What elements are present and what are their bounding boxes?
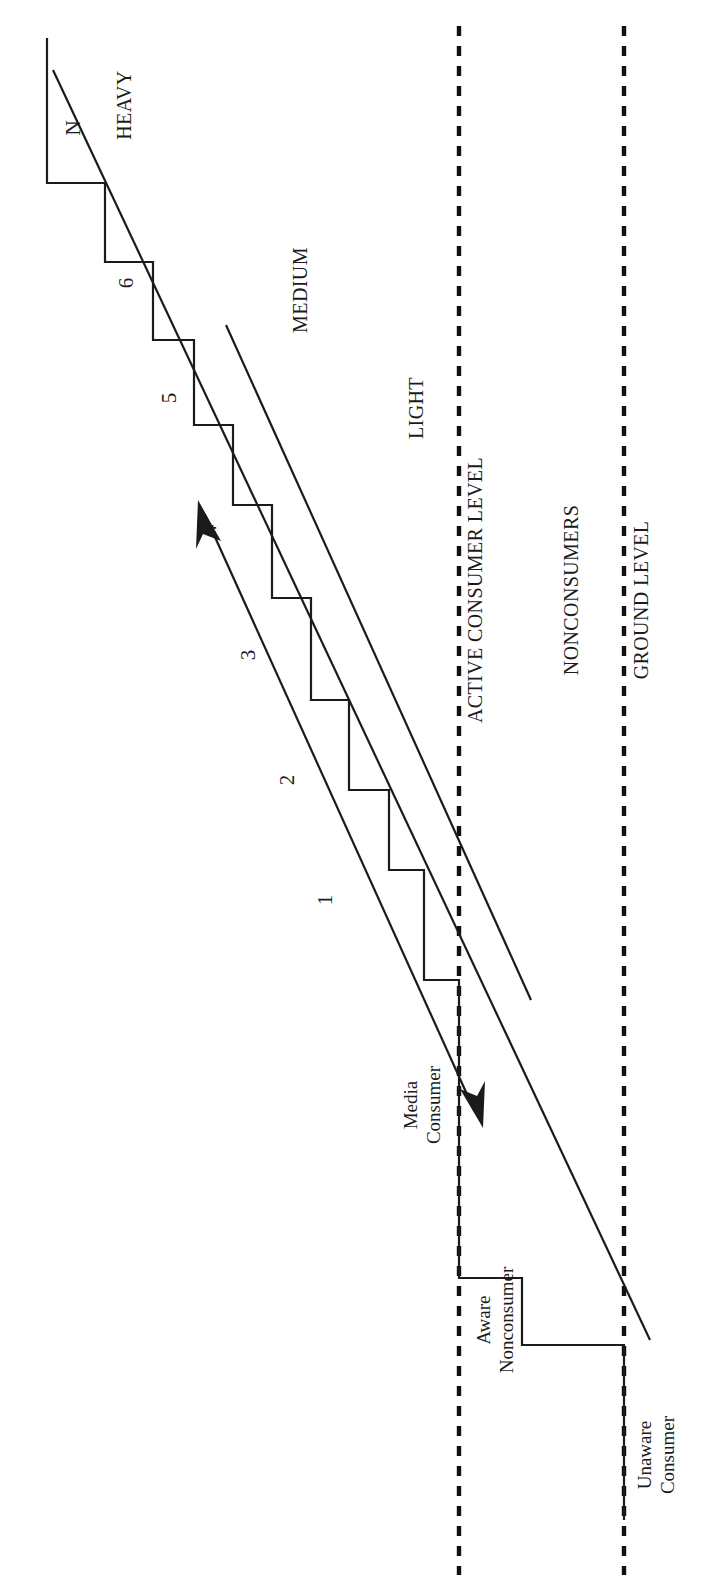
step-label-aware-nonconsumer-line1: Aware <box>473 1296 494 1345</box>
step-label-media-consumer-line2: Consumer <box>423 1065 444 1144</box>
step-label-6: 6 <box>114 278 138 289</box>
step-label-aware-nonconsumer-line2: Nonconsumer <box>496 1266 517 1373</box>
zone-label-nonconsumers: NONCONSUMERS <box>560 505 582 675</box>
staircase-diagram: N 6 5 4 3 2 1 Media Consumer Aware Nonco… <box>0 0 711 1591</box>
staircase-outline <box>47 38 624 1520</box>
level-label-ground: GROUND LEVEL <box>630 521 652 680</box>
step-label-media-consumer-line1: Media <box>400 1080 421 1129</box>
step-label-3: 3 <box>236 650 260 661</box>
step-label-n: N <box>61 120 85 135</box>
step-label-2: 2 <box>275 775 299 786</box>
intensity-label-medium: MEDIUM <box>289 247 311 333</box>
step-label-4: 4 <box>197 524 221 535</box>
heavy-trend-line <box>53 70 650 1340</box>
step-label-unaware-consumer-line2: Consumer <box>657 1415 678 1494</box>
intensity-label-light: LIGHT <box>405 377 427 439</box>
step-label-1: 1 <box>313 895 337 906</box>
intensity-label-heavy: HEAVY <box>113 70 135 139</box>
figure-canvas: N 6 5 4 3 2 1 Media Consumer Aware Nonco… <box>0 0 711 1591</box>
step-label-5: 5 <box>157 393 181 404</box>
involvement-arrow-shaft <box>205 515 475 1112</box>
level-label-active-consumer: ACTIVE CONSUMER LEVEL <box>464 457 486 723</box>
step-label-unaware-consumer-line1: Unaware <box>634 1421 655 1490</box>
